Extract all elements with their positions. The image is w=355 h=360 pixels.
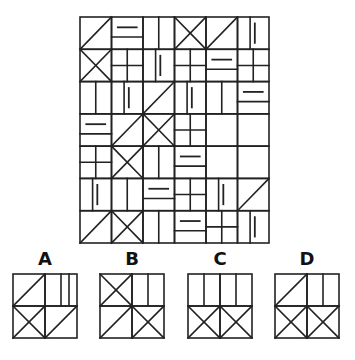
- cell-diag: [275, 274, 307, 306]
- cell-quad: [80, 146, 112, 178]
- cell-x: [143, 114, 175, 146]
- option-label-a: A: [25, 248, 65, 269]
- cell-vsplit: [132, 274, 164, 306]
- cell-hsplit_seg: [143, 178, 175, 210]
- cell-vsplit_seg: [112, 82, 144, 114]
- cell-x: [112, 146, 144, 178]
- cell-vsplit: [143, 211, 175, 243]
- cell-quad: [175, 114, 207, 146]
- cell-diag: [143, 82, 175, 114]
- cell-x: [275, 306, 307, 338]
- cell-diag: [80, 211, 112, 243]
- answer-options: [13, 274, 339, 338]
- cell-diag: [112, 114, 144, 146]
- option-label-d: D: [287, 248, 327, 269]
- cell-diag: [80, 17, 112, 49]
- option-b[interactable]: [100, 274, 164, 338]
- cell-vsplit: [307, 274, 339, 306]
- cell-hsplit_seg: [206, 49, 238, 81]
- cell-hsplit_seg: [238, 82, 270, 114]
- cell-vsplit: [206, 82, 238, 114]
- option-d[interactable]: [275, 274, 339, 338]
- cell-vsplit_seg: [238, 17, 270, 49]
- option-c[interactable]: [188, 274, 252, 338]
- option-label-b: B: [112, 248, 152, 269]
- option-label-c: C: [200, 248, 240, 269]
- cell-empty: [238, 146, 270, 178]
- cell-x: [132, 306, 164, 338]
- cell-hsplit_seg: [175, 146, 207, 178]
- cell-empty: [206, 146, 238, 178]
- cell-diag: [238, 178, 270, 210]
- cell-vsplit_seg: [143, 49, 175, 81]
- cell-quad: [238, 49, 270, 81]
- cell-hsplit_seg: [175, 211, 207, 243]
- cell-empty: [238, 114, 270, 146]
- cell-vsplit: [112, 178, 144, 210]
- puzzle-canvas: [0, 0, 355, 360]
- cell-x: [307, 306, 339, 338]
- cell-x: [220, 306, 252, 338]
- cell-x: [175, 17, 207, 49]
- cell-vsplit: [188, 274, 220, 306]
- cell-empty: [206, 114, 238, 146]
- cell-diag: [45, 306, 77, 338]
- cell-quad: [175, 178, 207, 210]
- cell-vsplit_seg_plain: [45, 274, 77, 306]
- cell-diag: [13, 274, 45, 306]
- cell-diag: [100, 306, 132, 338]
- cell-diag: [206, 17, 238, 49]
- cell-hsplit_seg: [80, 114, 112, 146]
- cell-x: [188, 306, 220, 338]
- cell-vsplit_seg: [175, 82, 207, 114]
- cell-quad: [112, 49, 144, 81]
- cell-vsplit_seg: [80, 178, 112, 210]
- cell-x: [13, 306, 45, 338]
- cell-vsplit: [143, 17, 175, 49]
- option-a[interactable]: [13, 274, 77, 338]
- cell-x: [80, 49, 112, 81]
- cell-vsplit_seg: [206, 178, 238, 210]
- cell-quad: [175, 49, 207, 81]
- cell-hsplit_seg: [112, 17, 144, 49]
- cell-quad: [206, 211, 238, 243]
- cell-x: [100, 274, 132, 306]
- cell-vsplit: [220, 274, 252, 306]
- cell-vsplit_seg: [238, 211, 270, 243]
- cell-vsplit: [143, 146, 175, 178]
- cell-x: [112, 211, 144, 243]
- pattern-grid: [80, 17, 269, 243]
- cell-vsplit: [80, 82, 112, 114]
